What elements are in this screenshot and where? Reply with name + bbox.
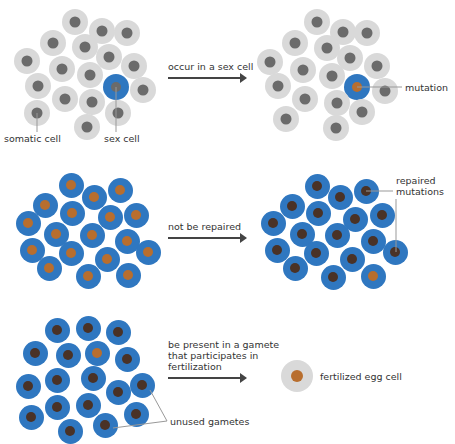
leader-line (113, 421, 167, 428)
leader-line (150, 390, 167, 421)
arrow-right-icon (168, 237, 242, 239)
label-mutation: mutation (405, 82, 448, 93)
arrow-label-not-repaired: not be repaired (168, 221, 241, 232)
arrow-right-icon (168, 377, 242, 379)
arrow-label-occur-in-sex-cell: occur in a sex cell (168, 61, 253, 72)
arrow-label-present-in-gamete: be present in a gamete that participates… (168, 339, 279, 372)
arrow-right-icon (168, 77, 242, 79)
label-somatic-cell: somatic cell (4, 133, 61, 144)
label-sex-cell: sex cell (104, 133, 140, 144)
label-unused-gametes: unused gametes (170, 416, 249, 427)
label-repaired-mutations: repaired mutations (396, 175, 444, 197)
label-fertilized-egg-cell: fertilized egg cell (320, 371, 402, 382)
